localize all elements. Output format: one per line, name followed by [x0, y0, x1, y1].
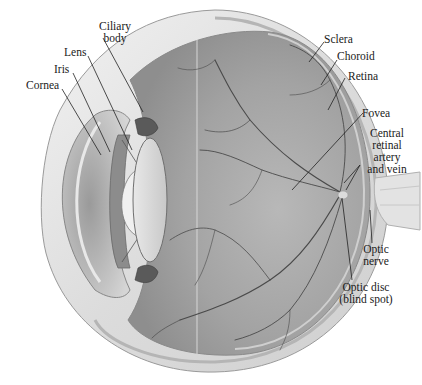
label-lens: Lens [64, 46, 86, 58]
label-fovea: Fovea [362, 107, 390, 119]
label-sclera: Sclera [324, 33, 353, 45]
label-cornea: Cornea [26, 79, 59, 91]
label-central-retinal-artery-vein: Central retinal artery and vein [362, 127, 412, 175]
optic-disc [338, 191, 348, 199]
eye-diagram: Ciliary body Lens Iris Cornea Sclera Cho… [0, 0, 422, 385]
label-retina: Retina [348, 70, 378, 82]
label-optic-nerve: Optic nerve [356, 243, 396, 267]
label-iris: Iris [54, 63, 69, 75]
label-ciliary-body: Ciliary body [90, 20, 140, 44]
label-choroid: Choroid [337, 50, 375, 62]
lens [133, 138, 167, 262]
label-optic-disc: Optic disc (blind spot) [336, 281, 396, 305]
